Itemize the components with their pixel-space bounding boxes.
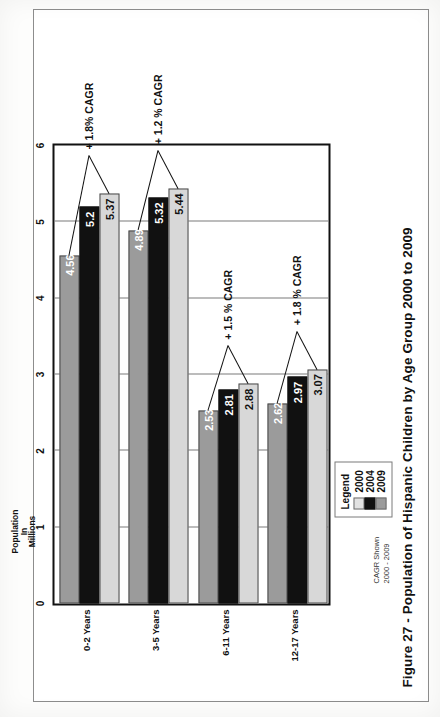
bar-value-label: 2.97 xyxy=(291,381,303,402)
bar-2009-3-5-years: 5.44 xyxy=(168,188,188,603)
axis-tick-label: 1 xyxy=(34,524,45,530)
legend-label: 2009 xyxy=(375,470,386,492)
bar-value-label: 5.44 xyxy=(172,193,184,214)
axis-tick-label: 6 xyxy=(34,142,45,148)
bar-2004-6-11-years: 2.81 xyxy=(218,389,238,603)
bar-2009-12-17-years: 3.07 xyxy=(307,369,327,603)
legend-box: Legend 200020042009 xyxy=(334,461,392,517)
figure-caption: Figure 27 - Population of Hispanic Child… xyxy=(399,27,414,687)
cagr-annotation: + 1.8% CAGR xyxy=(82,82,94,149)
axis-title-line-1: Population xyxy=(10,451,19,611)
bar-value-label: 3.07 xyxy=(311,374,323,395)
bar-2000-6-11-years: 2.53 xyxy=(198,410,218,603)
cagr-note-line-1: CAGR Shown xyxy=(371,536,380,583)
bar-value-label: 5.32 xyxy=(152,202,164,223)
scanned-page: Figure 27 - Population of Hispanic Child… xyxy=(0,0,440,717)
annotation-leader-line xyxy=(227,345,248,383)
bar-value-label: 2.53 xyxy=(202,409,214,430)
category-label: 0-2 Years xyxy=(80,609,91,661)
bar-value-label: 2.88 xyxy=(242,388,254,409)
category-label: 12-17 Years xyxy=(288,609,299,661)
cagr-annotation: + 1.8 % CAGR xyxy=(290,255,302,325)
annotation-leader-line xyxy=(88,155,109,193)
bar-2004-0-2-years: 5.2 xyxy=(79,206,99,603)
axis-title-line-3: Millions xyxy=(27,451,36,611)
legend-item: 2009 xyxy=(375,470,386,509)
bar-value-label: 2.62 xyxy=(271,402,283,423)
bar-2009-0-2-years: 5.37 xyxy=(99,193,119,603)
bar-2004-3-5-years: 5.32 xyxy=(148,197,168,603)
cagr-note: CAGR Shown 2000 - 2009 xyxy=(371,536,390,583)
bar-value-label: 5.2 xyxy=(83,211,95,226)
figure-rotated-stage: Figure 27 - Population of Hispanic Child… xyxy=(22,12,418,705)
legend-wrapper: Legend 200020042009 xyxy=(334,461,392,517)
axis-tick-label: 2 xyxy=(34,448,45,454)
axis-tick-label: 3 xyxy=(34,371,45,377)
bar-2004-12-17-years: 2.97 xyxy=(287,376,307,603)
bar-2009-6-11-years: 2.88 xyxy=(238,383,258,603)
legend-swatch xyxy=(353,497,364,509)
annotation-leader-line xyxy=(296,331,317,369)
bar-value-label: 4.56 xyxy=(63,254,75,275)
axis-tick-label: 0 xyxy=(34,600,45,606)
bar-chart: Population In Millions 0123456 4.565.25.… xyxy=(30,143,370,605)
category-label: 3-5 Years xyxy=(149,609,160,661)
cagr-annotation: + 1.5 % CAGR xyxy=(221,269,233,339)
legend-swatch xyxy=(375,497,386,509)
cagr-annotation: + 1.2 % CAGR xyxy=(151,74,163,144)
axis-tick-label: 5 xyxy=(34,219,45,225)
legend-item: 2000 xyxy=(353,470,364,509)
value-axis-title: Population In Millions xyxy=(10,451,36,611)
axis-tick-label: 4 xyxy=(34,295,45,301)
category-label: 6-11 Years xyxy=(219,609,230,661)
plot-area: 4.565.25.374.895.325.442.532.812.882.622… xyxy=(52,143,330,605)
bar-value-label: 4.89 xyxy=(132,229,144,250)
legend-rows: 200020042009 xyxy=(353,470,386,509)
legend-label: 2004 xyxy=(364,470,375,492)
bar-2000-3-5-years: 4.89 xyxy=(128,230,148,603)
legend-swatch xyxy=(364,497,375,509)
legend-label: 2000 xyxy=(353,470,364,492)
bar-2000-12-17-years: 2.62 xyxy=(267,403,287,603)
cagr-note-line-2: 2000 - 2009 xyxy=(381,536,390,583)
bar-value-label: 2.81 xyxy=(222,394,234,415)
bar-2000-0-2-years: 4.56 xyxy=(59,255,79,603)
annotation-leader-line xyxy=(157,150,178,188)
bar-value-label: 5.37 xyxy=(103,198,115,219)
legend-title: Legend xyxy=(339,470,350,509)
legend-item: 2004 xyxy=(364,470,375,509)
